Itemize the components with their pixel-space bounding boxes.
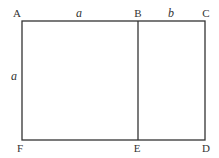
point-label-E: E (134, 142, 141, 154)
segment-label-AF: a (11, 69, 17, 83)
segment-label-BC: b (168, 6, 174, 20)
point-label-D: D (202, 142, 210, 154)
golden-rectangle-diagram: A B C D E F a b a (0, 0, 219, 158)
point-label-B: B (134, 7, 141, 19)
point-label-C: C (202, 7, 209, 19)
outer-rectangle (22, 21, 205, 140)
segment-label-AB: a (76, 6, 82, 20)
point-label-A: A (13, 7, 21, 19)
point-label-F: F (17, 142, 23, 154)
